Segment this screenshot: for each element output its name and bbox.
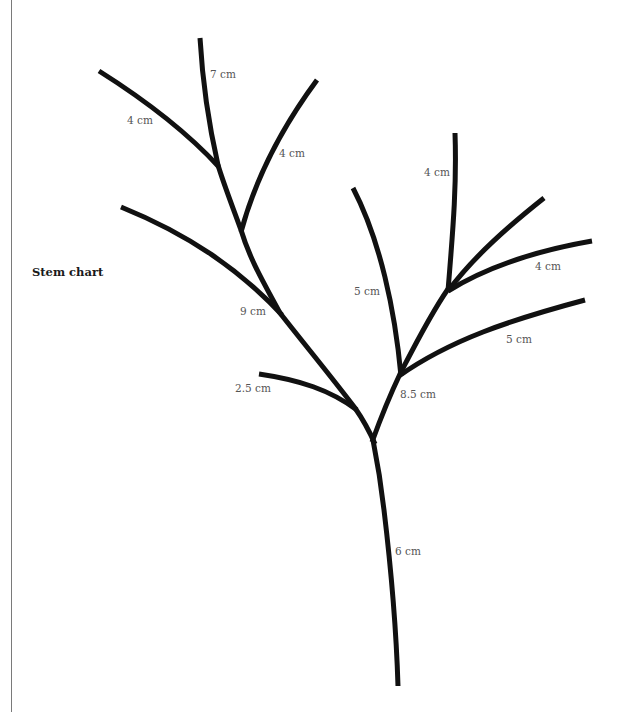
label-9cm: 9 cm [240, 305, 266, 317]
label-right-side-4cm: 4 cm [535, 260, 561, 272]
label-7cm: 7 cm [210, 68, 236, 80]
stem-right-main [372, 289, 448, 442]
stem-branch-right-diag [448, 198, 544, 291]
label-8-5cm: 8.5 cm [400, 388, 436, 400]
stem-trunk [373, 440, 398, 686]
stem-branch-right-low-5cm [399, 300, 585, 376]
stem-branch-upper-left-4cm [99, 71, 219, 167]
label-2-5cm: 2.5 cm [235, 382, 271, 394]
stem-branch-right-top-4cm [448, 133, 455, 291]
label-upper-left-4cm: 4 cm [127, 114, 153, 126]
stem-diagram [0, 0, 631, 718]
label-right-low-5cm: 5 cm [506, 333, 532, 345]
label-6cm: 6 cm [395, 545, 421, 557]
label-upper-right-4cm: 4 cm [279, 147, 305, 159]
label-right-top-4cm: 4 cm [424, 166, 450, 178]
stem-branch-left-long [121, 207, 282, 315]
stem-branch-right-up-5cm [353, 188, 401, 376]
label-right-up-5cm: 5 cm [354, 285, 380, 297]
